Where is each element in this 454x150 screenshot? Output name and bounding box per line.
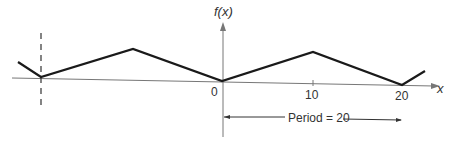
- period-arrow-right-line: [343, 119, 401, 120]
- x-axis-label: x: [436, 81, 444, 96]
- periodic-function-plot: f(x) x 0 10 20 Period = 20: [0, 0, 454, 150]
- y-axis-arrow-icon: [220, 22, 226, 31]
- period-arrow-left-icon: [224, 115, 230, 119]
- period-arrow-right-icon: [396, 118, 402, 122]
- y-axis-label: f(x): [214, 4, 233, 19]
- tick-label-20: 20: [395, 89, 409, 103]
- period-label: Period = 20: [288, 111, 350, 125]
- tick-label-10: 10: [305, 88, 319, 102]
- tick-label-0: 0: [211, 85, 218, 99]
